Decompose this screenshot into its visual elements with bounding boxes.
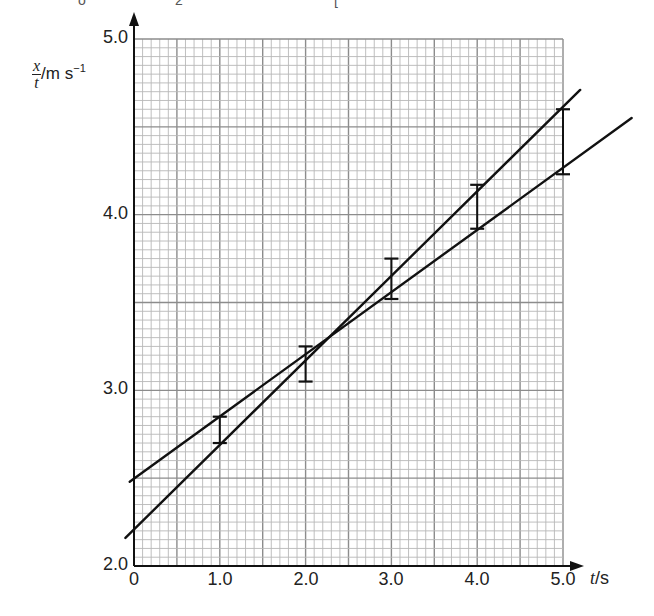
best-fit-line — [130, 118, 632, 482]
x-tick-label: 4.0 — [457, 569, 497, 590]
x-label-unit: /s — [595, 568, 609, 588]
y-label-unit: /m s−1 — [41, 64, 86, 83]
y-label-fraction: x t — [32, 58, 41, 91]
y-label-exponent: −1 — [73, 62, 86, 74]
x-tick-label: 2.0 — [286, 569, 326, 590]
grid — [134, 39, 563, 566]
y-label-denominator: t — [32, 75, 41, 91]
y-label-numerator: x — [32, 58, 41, 75]
y-tick-label: 3.0 — [88, 378, 128, 399]
plot-area — [0, 0, 654, 616]
x-axis-label: t/s — [590, 568, 609, 589]
chart: o 2 [ x t /m s−1 t/s 2.0 3.0 4.0 5.0 0 1… — [0, 0, 654, 616]
y-label-unit-text: /m s — [41, 64, 73, 83]
x-tick-label: 5.0 — [543, 569, 583, 590]
y-tick-label: 5.0 — [88, 27, 128, 48]
x-tick-label: 0 — [114, 569, 154, 590]
x-tick-label: 3.0 — [371, 569, 411, 590]
y-axis-label: x t /m s−1 — [32, 58, 86, 91]
best-fit-lines — [125, 90, 631, 538]
x-tick-label: 1.0 — [200, 569, 240, 590]
y-axis-arrow-icon — [129, 12, 139, 26]
y-tick-label: 4.0 — [88, 203, 128, 224]
